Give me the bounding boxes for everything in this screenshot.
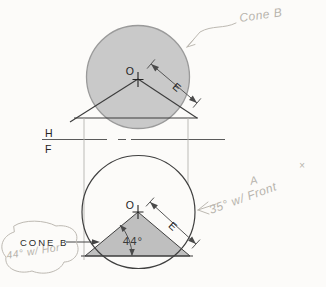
pencil-cone-b-note: Cone B [238,5,283,25]
fold-line-h-label: H [45,127,53,139]
top-view-center-label: O [126,65,134,77]
fold-line-f-label: F [45,143,51,155]
front-view-center-label: O [126,199,134,211]
base-angle-label: 44° [123,235,143,247]
drawing-page: O E H F O E 44° CONE B Cone B A 35° w/ F… [0,0,326,287]
front-view-element-label: E [166,219,179,233]
pencil-a-angle-note: 35° w/ Front [207,179,278,216]
geometry-drawing: O E H F O E 44° CONE B Cone B A 35° w/ F… [0,0,326,287]
pencil-cone-b-leader-arrow [187,23,236,47]
pencil-stray-mark: × [299,160,305,171]
